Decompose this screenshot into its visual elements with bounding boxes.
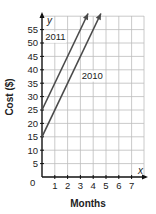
x-tick-label: 6 [116,180,121,191]
origin-label: 0 [30,177,35,188]
x-axis-variable: x [137,165,144,176]
y-tick-label: 35 [27,78,38,89]
y-tick-label: 40 [27,64,38,75]
y-axis-variable: y [46,15,53,26]
y-tick-label: 45 [27,51,38,62]
x-tick-label: 7 [129,180,134,191]
x-tick-label: 1 [52,180,57,191]
y-tick-label: 55 [27,24,38,35]
series-label: 2011 [45,31,65,42]
line-chart: 510152025303540455055 1234567 0 y x Cost… [0,0,156,214]
y-tick-label: 10 [27,145,38,156]
x-axis-label: Months [70,198,106,209]
y-axis-label: Cost ($) [4,78,15,115]
y-tick-label: 50 [27,37,38,48]
y-tick-label: 20 [27,118,38,129]
series-line-2011 [42,14,88,110]
x-tick-label: 5 [103,180,108,191]
y-tick-label: 5 [33,158,38,169]
x-tick-label: 3 [78,180,83,191]
x-tick-label: 4 [91,180,96,191]
y-tick-label: 25 [27,104,38,115]
x-tick-label: 2 [65,180,70,191]
y-tick-label: 15 [27,131,38,142]
series-label: 2010 [82,70,103,81]
y-tick-label: 30 [27,91,38,102]
